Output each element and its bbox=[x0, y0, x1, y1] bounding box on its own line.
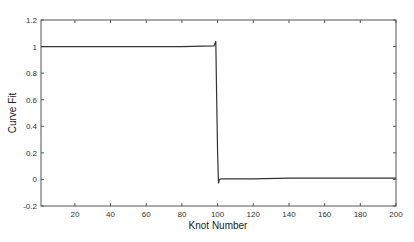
x-tick-label: 180 bbox=[354, 210, 368, 219]
y-tick-label: 0 bbox=[33, 175, 38, 184]
x-tick-label: 120 bbox=[247, 210, 261, 219]
x-tick-label: 20 bbox=[70, 210, 79, 219]
x-tick-label: 200 bbox=[389, 210, 403, 219]
x-tick-label: 40 bbox=[106, 210, 115, 219]
x-tick-label: 60 bbox=[142, 210, 151, 219]
y-axis-label: Curve Fit bbox=[7, 92, 18, 133]
x-tick-label: 100 bbox=[211, 210, 225, 219]
x-axis-label: Knot Number bbox=[189, 220, 249, 231]
y-tick-label: 0.6 bbox=[26, 96, 38, 105]
x-tick-label: 140 bbox=[282, 210, 296, 219]
y-tick-label: -0.2 bbox=[23, 202, 37, 211]
y-tick-label: 0.8 bbox=[26, 69, 38, 78]
x-tick-label: 160 bbox=[318, 210, 332, 219]
line-chart: -0.200.20.40.60.811.2 204060801001201401… bbox=[0, 0, 414, 242]
x-tick-label: 80 bbox=[177, 210, 186, 219]
y-tick-label: 0.2 bbox=[26, 149, 38, 158]
y-tick-label: 0.4 bbox=[26, 122, 38, 131]
y-tick-label: 1 bbox=[33, 43, 38, 52]
y-tick-label: 1.2 bbox=[26, 16, 38, 25]
